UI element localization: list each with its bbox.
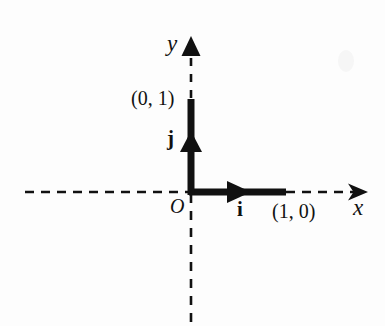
vector-j-label: j <box>167 128 174 149</box>
point-label-0-1: (0, 1) <box>131 88 174 108</box>
axes-and-vectors-drawing <box>0 0 385 326</box>
point-label-1-0: (1, 0) <box>272 201 315 221</box>
y-axis-label: y <box>167 32 177 55</box>
vector-j-arrowhead-icon <box>180 131 202 152</box>
vector-i-label: i <box>237 199 243 220</box>
y-axis-arrowhead-icon <box>182 36 201 56</box>
origin-label: O <box>170 196 184 216</box>
x-axis-label: x <box>353 196 363 219</box>
figure-container: y x O (0, 1) (1, 0) j i <box>0 0 385 326</box>
